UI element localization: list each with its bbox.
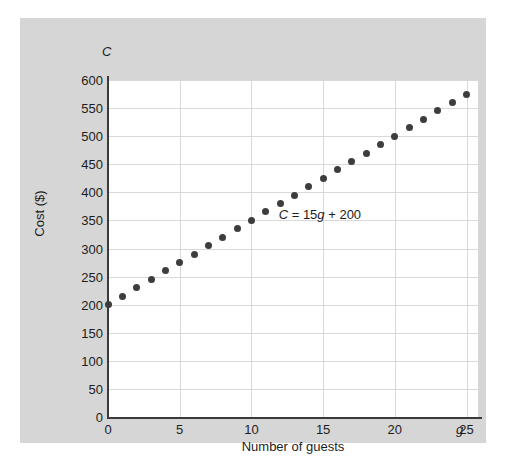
data-point (262, 208, 269, 215)
gridline-horizontal (108, 164, 478, 165)
y-tick-label: 400 (63, 186, 103, 199)
x-axis-line (107, 417, 482, 419)
x-axis-symbol-label: g (456, 422, 463, 437)
y-tick-label: 150 (63, 327, 103, 340)
gridline-vertical (395, 80, 396, 417)
gridline-horizontal (108, 389, 478, 390)
data-point (377, 141, 384, 148)
plot-area (108, 80, 478, 417)
gridline-vertical (323, 80, 324, 417)
y-tick-label: 50 (63, 383, 103, 396)
data-point (162, 267, 169, 274)
gridline-horizontal (108, 80, 478, 81)
gridline-horizontal (108, 108, 478, 109)
x-axis-title: Number of guests (108, 439, 478, 454)
x-tick-label: 20 (375, 423, 415, 436)
data-point (391, 133, 398, 140)
gridline-vertical (251, 80, 252, 417)
gridline-horizontal (108, 305, 478, 306)
data-point (434, 107, 441, 114)
y-tick-label: 600 (63, 74, 103, 87)
data-point (449, 99, 456, 106)
gridline-horizontal (108, 277, 478, 278)
y-axis-symbol-label: C (102, 44, 111, 59)
data-point (320, 175, 327, 182)
data-point (291, 192, 298, 199)
data-point (148, 276, 155, 283)
y-axis-tick-labels: 050100150200250300350400450500550600 (58, 18, 103, 443)
gridline-horizontal (108, 361, 478, 362)
x-tick-label: 15 (303, 423, 343, 436)
x-tick-label: 5 (160, 423, 200, 436)
y-tick-label: 350 (63, 214, 103, 227)
y-tick-label: 550 (63, 102, 103, 115)
y-tick-label: 200 (63, 299, 103, 312)
gridline-horizontal (108, 136, 478, 137)
y-tick-label: 250 (63, 271, 103, 284)
y-tick-label: 500 (63, 130, 103, 143)
data-point (334, 166, 341, 173)
y-tick-label: 300 (63, 243, 103, 256)
data-point (463, 91, 470, 98)
gridline-vertical (180, 80, 181, 417)
data-point (363, 150, 370, 157)
data-point (420, 116, 427, 123)
data-point (205, 242, 212, 249)
data-point (406, 124, 413, 131)
data-point (119, 293, 126, 300)
data-point (219, 234, 226, 241)
y-tick-label: 100 (63, 355, 103, 368)
gridline-vertical (467, 80, 468, 417)
y-axis-title: Cost ($) (32, 169, 47, 259)
gridline-horizontal (108, 333, 478, 334)
data-point (191, 251, 198, 258)
y-tick-label: 450 (63, 158, 103, 171)
x-tick-label: 10 (231, 423, 271, 436)
data-point (133, 284, 140, 291)
x-tick-label: 25 (447, 423, 487, 436)
data-point (305, 183, 312, 190)
y-axis-line (107, 76, 109, 419)
chart-figure-panel: C 050100150200250300350400450500550600 0… (20, 18, 486, 443)
data-point (234, 225, 241, 232)
gridline-horizontal (108, 249, 478, 250)
data-point (248, 217, 255, 224)
equation-annotation: C = 15g + 200 (279, 207, 361, 222)
data-point (176, 259, 183, 266)
x-tick-label: 0 (88, 423, 128, 436)
